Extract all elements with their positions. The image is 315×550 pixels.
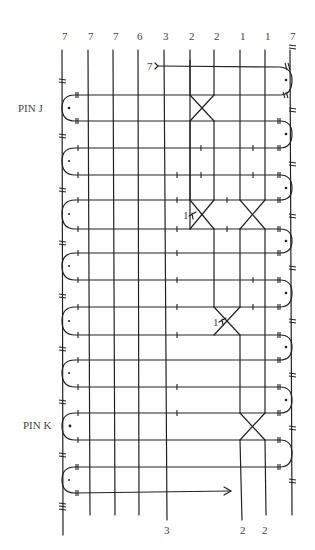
crossing-label: 1 — [213, 316, 219, 328]
pin-k-label: PIN K — [23, 419, 51, 431]
col-label: 7 — [290, 30, 296, 42]
bottom-col-label: 2 — [240, 524, 246, 536]
thread-diagram: 7 7 7 6 3 2 2 1 1 7 — [0, 0, 315, 550]
col-label: 3 — [163, 30, 169, 42]
start-marker-label: 7 — [147, 60, 153, 72]
vertical-threads — [62, 50, 292, 535]
col-label: 7 — [113, 30, 119, 42]
col-label: 6 — [137, 30, 143, 42]
col-label: 7 — [62, 30, 68, 42]
crossing-label: 1 — [183, 209, 189, 221]
pin-j-label: PIN J — [18, 102, 43, 114]
column-labels-top: 7 7 7 6 3 2 2 1 1 7 — [62, 30, 296, 42]
bottom-col-label: 2 — [262, 524, 268, 536]
col-label: 2 — [189, 30, 195, 42]
bottom-col-label: 3 — [164, 524, 170, 536]
col-label: 1 — [240, 30, 246, 42]
col-label: 2 — [214, 30, 220, 42]
col-label: 1 — [265, 30, 271, 42]
col-label: 7 — [88, 30, 94, 42]
